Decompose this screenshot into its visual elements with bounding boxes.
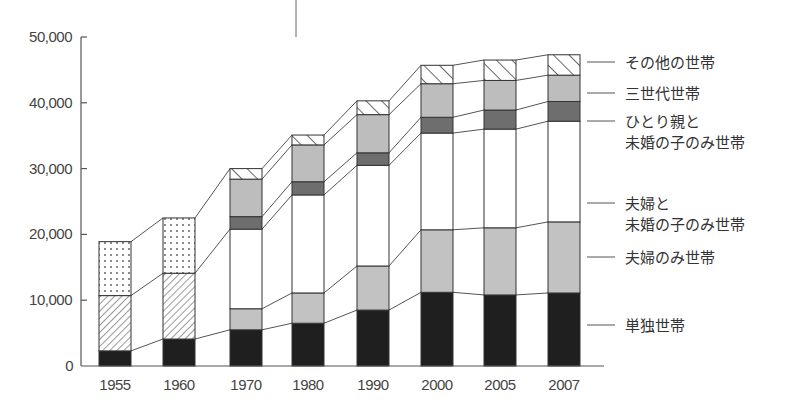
x-tick-label: 1990 — [357, 376, 389, 393]
bar-segment — [230, 330, 262, 366]
bar-segment — [230, 309, 262, 330]
bar-segment — [357, 165, 389, 266]
bar-2005 — [484, 60, 516, 366]
bar-segment — [484, 295, 516, 366]
bar-segment — [484, 60, 516, 80]
legend-label: ひとり親と — [625, 113, 700, 131]
x-tick-label: 1980 — [292, 376, 324, 393]
bar-2007 — [548, 55, 580, 366]
bar-segment — [292, 135, 324, 145]
bar-segment — [357, 266, 389, 310]
x-tick-label: 2007 — [548, 376, 580, 393]
bar-segment — [484, 228, 516, 295]
bar-segment — [548, 121, 580, 222]
bar-segment — [548, 55, 580, 75]
bar-segment — [163, 273, 195, 339]
bar-segment — [421, 292, 453, 366]
bar-segment — [357, 115, 389, 153]
x-tick-label: 2000 — [421, 376, 453, 393]
bar-segment — [99, 242, 131, 296]
bar-segment — [230, 179, 262, 217]
bar-1955 — [99, 242, 131, 366]
bars — [99, 55, 580, 366]
y-tick-label: 30,000 — [29, 160, 72, 177]
y-tick-label: 40,000 — [29, 94, 72, 111]
y-tick-label: 0 — [65, 357, 73, 374]
bar-segment — [421, 65, 453, 83]
bar-segment — [484, 80, 516, 110]
legend-label: 単独世帯 — [625, 317, 685, 335]
bar-segment — [421, 133, 453, 230]
bar-1970 — [230, 169, 262, 366]
bar-segment — [292, 323, 324, 366]
x-tick-label: 1955 — [99, 376, 131, 393]
bar-segment — [163, 339, 195, 366]
bar-1980 — [292, 135, 324, 366]
y-tick-label: 10,000 — [29, 291, 72, 308]
bar-segment — [484, 110, 516, 129]
bar-segment — [292, 195, 324, 293]
legend-label: 三世代世帯 — [625, 85, 700, 103]
bar-segment — [230, 229, 262, 309]
bar-segment — [548, 101, 580, 121]
legend-label: 夫婦と — [625, 195, 670, 213]
x-tick-label: 2005 — [484, 376, 516, 393]
bar-segment — [548, 293, 580, 366]
bar-1960 — [163, 218, 195, 366]
bar-segment — [292, 293, 324, 323]
legend-label: 未婚の子のみ世帯 — [625, 216, 745, 234]
bar-segment — [230, 217, 262, 230]
bar-segment — [421, 230, 453, 293]
legend: その他の世帯三世代世帯ひとり親と未婚の子のみ世帯夫婦と未婚の子のみ世帯夫婦のみ世… — [587, 54, 745, 335]
x-tick-label: 1960 — [163, 376, 195, 393]
legend-label: 夫婦のみ世帯 — [625, 249, 715, 267]
bar-segment — [292, 182, 324, 195]
bar-segment — [421, 84, 453, 118]
x-tick-label: 1970 — [230, 376, 262, 393]
y-tick-label: 20,000 — [29, 225, 72, 242]
legend-label: その他の世帯 — [625, 54, 715, 72]
bar-segment — [357, 101, 389, 115]
bar-segment — [292, 145, 324, 182]
legend-label: 未婚の子のみ世帯 — [625, 134, 745, 152]
bar-segment — [357, 310, 389, 366]
bar-segment — [548, 222, 580, 293]
bar-segment — [230, 169, 262, 180]
y-tick-label: 50,000 — [29, 28, 72, 45]
bar-segment — [548, 75, 580, 101]
bar-segment — [99, 351, 131, 366]
bar-segment — [99, 296, 131, 351]
bar-segment — [421, 117, 453, 133]
bar-1990 — [357, 101, 389, 366]
bar-2000 — [421, 65, 453, 366]
bar-segment — [484, 129, 516, 228]
bar-segment — [163, 218, 195, 273]
household-composition-chart: 010,00020,00030,00040,00050,000195519601… — [0, 0, 800, 419]
bar-segment — [357, 153, 389, 166]
